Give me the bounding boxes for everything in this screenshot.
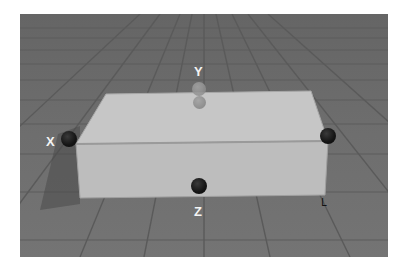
cursor-icon: L — [321, 198, 327, 208]
y-axis-label: Y — [194, 65, 203, 78]
z-axis-handle[interactable] — [191, 178, 207, 194]
y-handle-ghost-upper[interactable] — [192, 82, 206, 96]
y-axis-handle[interactable] — [193, 96, 206, 109]
x-axis-handle[interactable] — [61, 131, 77, 147]
3d-viewport[interactable]: Y X Z L — [20, 14, 388, 257]
z-axis-label: Z — [194, 205, 202, 218]
x-axis-label: X — [46, 135, 55, 148]
x-axis-opposite-handle[interactable] — [320, 128, 336, 144]
